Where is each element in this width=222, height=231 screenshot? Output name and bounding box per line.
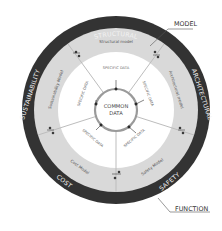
svg-text:FUNCTION: FUNCTION bbox=[175, 205, 208, 213]
svg-text:MODEL: MODEL bbox=[174, 20, 198, 28]
common-data-label-1: COMMON bbox=[104, 103, 129, 109]
common-data-label-2: DATA bbox=[109, 110, 123, 116]
common-data-diagram: COMMON DATA SPECIFIC DATA SPECIFIC DATA … bbox=[0, 0, 222, 231]
function-callout: FUNCTION bbox=[158, 198, 210, 213]
specific-data-top: SPECIFIC DATA bbox=[103, 66, 130, 70]
structural-model-label: Structural model bbox=[99, 39, 133, 44]
